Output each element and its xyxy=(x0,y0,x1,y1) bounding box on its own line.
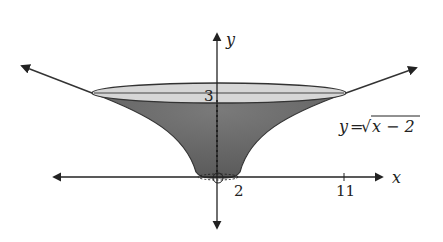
x-tick-label-2: 2 xyxy=(234,182,244,200)
svg-text:√: √ xyxy=(361,117,372,136)
svg-text:y: y xyxy=(338,117,349,136)
surface-of-revolution-figure: y x 3 2 11 y = √ x − 2 xyxy=(0,0,443,242)
equation-label: y = √ x − 2 xyxy=(338,116,420,136)
x-tick-label-11: 11 xyxy=(336,182,355,200)
x-axis-label: x xyxy=(392,168,401,187)
right-curve-arrow xyxy=(346,68,416,93)
y-tick-label-3: 3 xyxy=(204,87,214,105)
surface-body xyxy=(92,93,346,178)
y-axis-label: y xyxy=(225,30,236,49)
left-curve-arrow xyxy=(22,66,92,93)
svg-text:x − 2: x − 2 xyxy=(372,117,415,136)
